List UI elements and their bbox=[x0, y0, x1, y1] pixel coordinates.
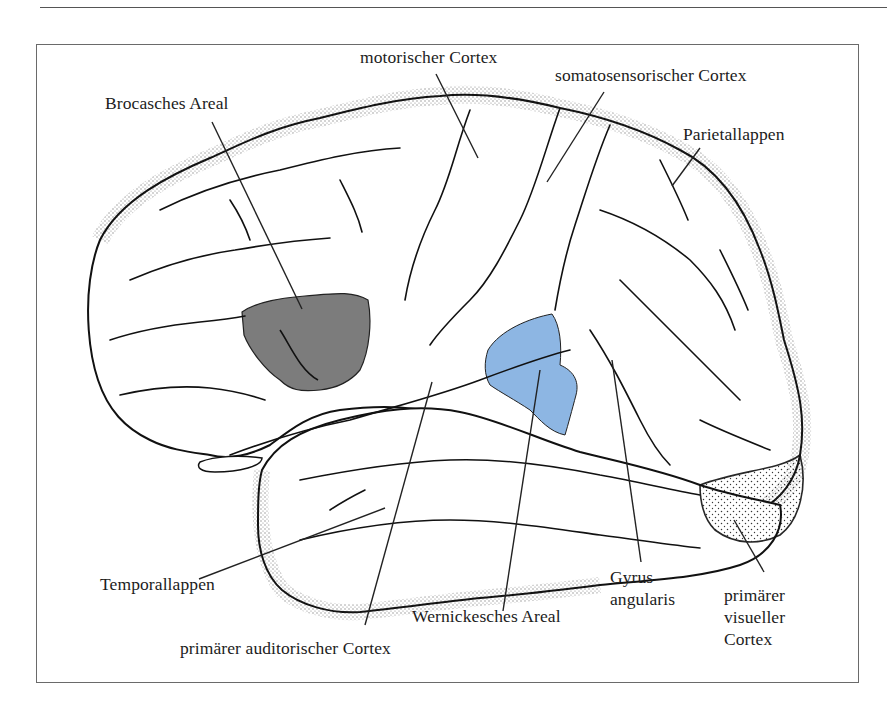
label-wernicke-area: Wernickesches Areal bbox=[412, 605, 561, 627]
label-temporal-lobe: Temporallappen bbox=[100, 573, 215, 595]
label-motor-cortex: motorischer Cortex bbox=[360, 46, 497, 68]
label-broca-area: Brocasches Areal bbox=[105, 92, 229, 114]
label-parietal-lobe: Parietallappen bbox=[683, 123, 785, 145]
label-angular-gyrus: Gyrus angularis bbox=[610, 566, 675, 610]
label-primary-auditory-cortex: primärer auditorischer Cortex bbox=[180, 637, 391, 659]
label-somatosensory-cortex: somatosensorischer Cortex bbox=[555, 64, 747, 86]
orbital-gyrus bbox=[199, 456, 262, 472]
label-primary-visual-cortex: primärer visueller Cortex bbox=[724, 584, 785, 650]
